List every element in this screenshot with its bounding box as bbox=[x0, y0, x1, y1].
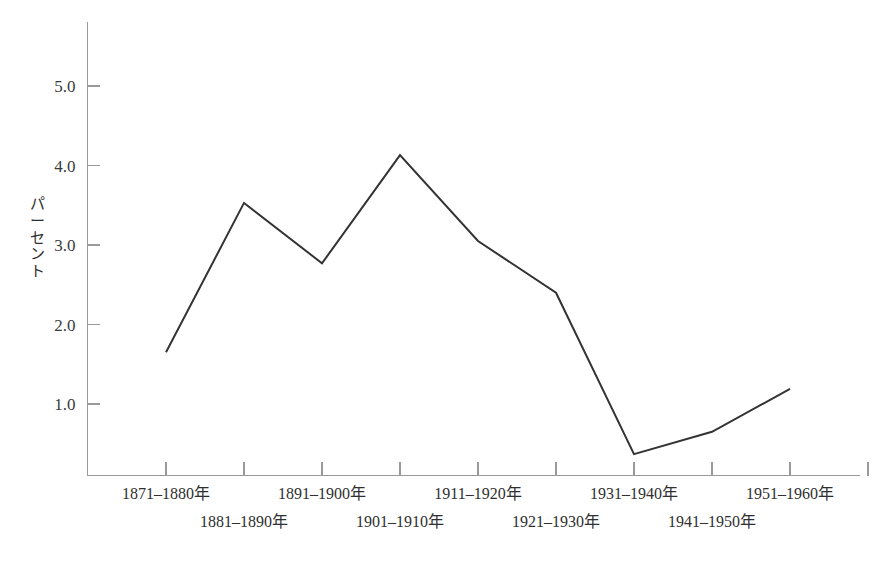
x-tick-label: 1871–1880年 bbox=[122, 485, 210, 502]
x-tick-label: 1881–1890年 bbox=[200, 513, 288, 530]
line-chart-figure: パーセント 1.02.03.04.05.0 1871–1880年1881–189… bbox=[0, 0, 872, 562]
x-tick-label: 1921–1930年 bbox=[512, 513, 600, 530]
y-tick-label: 3.0 bbox=[54, 236, 75, 255]
x-tick-label: 1941–1950年 bbox=[668, 513, 756, 530]
y-tick-label: 5.0 bbox=[54, 77, 75, 96]
y-tick-group bbox=[88, 86, 100, 404]
x-tick-group bbox=[166, 462, 868, 476]
y-tick-label: 4.0 bbox=[54, 157, 75, 176]
y-tick-label: 2.0 bbox=[54, 316, 75, 335]
y-tick-label: 1.0 bbox=[54, 395, 75, 414]
x-tick-label: 1931–1940年 bbox=[590, 485, 678, 502]
chart-canvas: 1.02.03.04.05.0 1871–1880年1881–1890年1891… bbox=[0, 0, 872, 562]
x-tick-label: 1951–1960年 bbox=[746, 485, 834, 502]
x-tick-label: 1891–1900年 bbox=[278, 485, 366, 502]
y-tick-label-group: 1.02.03.04.05.0 bbox=[54, 77, 75, 414]
x-tick-label: 1911–1920年 bbox=[434, 485, 521, 502]
x-tick-label-group: 1871–1880年1881–1890年1891–1900年1901–1910年… bbox=[122, 485, 834, 530]
x-tick-label: 1901–1910年 bbox=[356, 513, 444, 530]
data-series-line bbox=[166, 155, 790, 454]
axes-group bbox=[88, 22, 861, 476]
